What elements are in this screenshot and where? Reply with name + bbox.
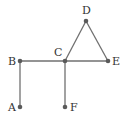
label-a: A <box>7 101 17 114</box>
node-b <box>18 59 23 64</box>
node-a <box>18 105 23 110</box>
label-e: E <box>112 55 120 68</box>
graph-diagram: A B C D E F <box>0 0 127 114</box>
edge-d-e <box>86 21 108 61</box>
label-f: F <box>70 101 78 114</box>
node-d <box>84 19 89 24</box>
label-b: B <box>8 55 16 68</box>
label-c: C <box>54 46 62 59</box>
edges <box>20 21 108 107</box>
node-c <box>63 59 68 64</box>
label-d: D <box>82 4 91 17</box>
labels: A B C D E F <box>7 4 120 114</box>
node-e <box>106 59 111 64</box>
node-f <box>63 105 68 110</box>
nodes <box>18 19 111 110</box>
edge-c-d <box>65 21 86 61</box>
